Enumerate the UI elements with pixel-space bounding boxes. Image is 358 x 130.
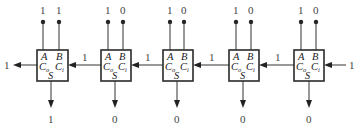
pin-s-label: S bbox=[48, 70, 54, 81]
sum-arrow-icon bbox=[174, 100, 180, 108]
pin-s-label: S bbox=[305, 70, 311, 81]
full-adder-3: 1 0 A B C o C i S 0 bbox=[163, 4, 193, 125]
sum-output-value: 0 bbox=[174, 113, 180, 125]
full-adder-2: 1 0 A B C o C i S 0 bbox=[101, 4, 131, 125]
sum-output-value: 0 bbox=[112, 113, 118, 125]
input-a-value: 1 bbox=[233, 4, 239, 16]
carry-label-5-4: 1 bbox=[275, 51, 281, 63]
pin-s-label: S bbox=[112, 70, 118, 81]
carry-label-4-3: 1 bbox=[209, 51, 215, 63]
initial-carry-arrow-icon bbox=[324, 62, 332, 68]
carry-label-3-2: 1 bbox=[145, 51, 151, 63]
final-carry-arrow-icon bbox=[13, 62, 21, 68]
input-b-value: 0 bbox=[313, 4, 319, 16]
input-b-value: 0 bbox=[248, 4, 254, 16]
full-adder-5: 1 0 A B C o C i S 0 bbox=[294, 4, 324, 125]
input-a-value: 1 bbox=[167, 4, 173, 16]
sum-output-value: 1 bbox=[48, 113, 54, 125]
adder-chain-diagram: 1 1 1 1 1 1 1 1 A B C o C i S 1 1 0 bbox=[0, 0, 358, 130]
carry-arrow-3-2-icon bbox=[131, 62, 139, 68]
input-b-value: 0 bbox=[120, 4, 126, 16]
input-b-value: 1 bbox=[56, 4, 62, 16]
full-adder-1: 1 1 A B C o C i S 1 bbox=[37, 4, 68, 125]
sum-arrow-icon bbox=[306, 100, 312, 108]
input-a-value: 1 bbox=[40, 4, 46, 16]
carry-arrow-4-3-icon bbox=[193, 62, 201, 68]
sum-output-value: 0 bbox=[240, 113, 246, 125]
input-a-value: 1 bbox=[298, 4, 304, 16]
sum-arrow-icon bbox=[48, 100, 54, 108]
input-a-value: 1 bbox=[105, 4, 111, 16]
sum-output-value: 0 bbox=[306, 113, 312, 125]
svg-text:i: i bbox=[187, 66, 189, 73]
svg-text:i: i bbox=[125, 66, 127, 73]
full-adder-4: 1 0 A B C o C i S 0 bbox=[229, 4, 259, 125]
svg-text:i: i bbox=[318, 66, 320, 73]
carry-arrow-5-4-icon bbox=[259, 62, 267, 68]
pin-s-label: S bbox=[240, 70, 246, 81]
final-carry-out-label: 1 bbox=[4, 59, 10, 71]
pin-s-label: S bbox=[174, 70, 180, 81]
svg-text:i: i bbox=[62, 66, 64, 73]
svg-text:i: i bbox=[253, 66, 255, 73]
initial-carry-in-label: 1 bbox=[349, 59, 355, 71]
input-b-value: 0 bbox=[181, 4, 187, 16]
carry-label-2-1: 1 bbox=[82, 51, 88, 63]
carry-arrow-2-1-icon bbox=[68, 62, 76, 68]
sum-arrow-icon bbox=[112, 100, 118, 108]
sum-arrow-icon bbox=[240, 100, 246, 108]
